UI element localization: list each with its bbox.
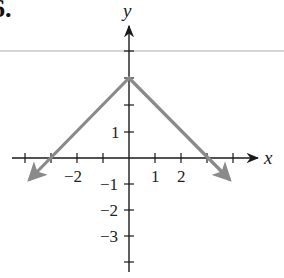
y-tick-label-neg2: −2 bbox=[100, 201, 118, 220]
graph-figure: 6. bbox=[0, 0, 284, 278]
x-tick-label-2: 2 bbox=[177, 167, 186, 186]
x-axis-label: x bbox=[263, 147, 273, 168]
coordinate-plane: y x −2 1 2 1 −1 −2 −3 bbox=[0, 0, 284, 278]
x-tick-label-1: 1 bbox=[151, 167, 160, 186]
problem-number: 6. bbox=[0, 0, 12, 24]
right-branch bbox=[129, 78, 229, 179]
y-tick-label-neg1: −1 bbox=[100, 175, 118, 194]
x-tick-label-neg2: −2 bbox=[64, 167, 82, 186]
y-axis-label: y bbox=[121, 0, 132, 21]
y-tick-label-1: 1 bbox=[111, 123, 120, 142]
y-tick-label-neg3: −3 bbox=[100, 227, 118, 246]
